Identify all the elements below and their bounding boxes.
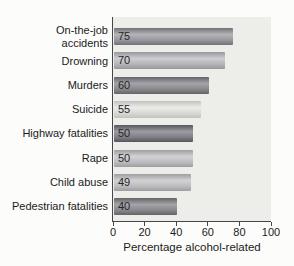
bar-row: Child abuse49 xyxy=(0,174,294,191)
x-tick-label: 100 xyxy=(256,226,286,238)
category-label: Suicide xyxy=(0,101,108,118)
x-tick-label: 0 xyxy=(98,226,128,238)
x-tick-label: 20 xyxy=(130,226,160,238)
bar: 50 xyxy=(114,125,193,142)
bar: 75 xyxy=(114,28,233,45)
category-label: Drowning xyxy=(0,52,108,69)
category-label: Murders xyxy=(0,77,108,94)
bar: 40 xyxy=(114,198,177,215)
value-label: 50 xyxy=(118,150,130,167)
bar: 60 xyxy=(114,77,209,94)
bar: 49 xyxy=(114,174,191,191)
bar-row: On-the-job accidents75 xyxy=(0,28,294,45)
value-label: 70 xyxy=(118,52,130,69)
bar: 70 xyxy=(114,52,225,69)
bar: 55 xyxy=(114,101,201,118)
bar: 50 xyxy=(114,150,193,167)
bar-row: Drowning70 xyxy=(0,52,294,69)
category-label: Highway fatalities xyxy=(0,125,108,142)
category-label: On-the-job accidents xyxy=(0,28,108,45)
value-label: 40 xyxy=(118,198,130,215)
bar-row: Suicide55 xyxy=(0,101,294,118)
category-label: Rape xyxy=(0,150,108,167)
value-label: 50 xyxy=(118,125,130,142)
value-label: 75 xyxy=(118,28,130,45)
x-tick-label: 40 xyxy=(161,226,191,238)
x-tick-label: 80 xyxy=(224,226,254,238)
x-tick-label: 60 xyxy=(193,226,223,238)
alcohol-bar-chart: On-the-job accidents75Drowning70Murders6… xyxy=(0,0,294,266)
value-label: 49 xyxy=(118,174,130,191)
category-label: Pedestrian fatalities xyxy=(0,198,108,215)
bar-row: Pedestrian fatalities40 xyxy=(0,198,294,215)
value-label: 55 xyxy=(118,101,130,118)
bar-row: Highway fatalities50 xyxy=(0,125,294,142)
bar-row: Rape50 xyxy=(0,150,294,167)
x-axis-label: Percentage alcohol-related xyxy=(100,241,284,253)
category-label: Child abuse xyxy=(0,174,108,191)
bar-row: Murders60 xyxy=(0,77,294,94)
value-label: 60 xyxy=(118,77,130,94)
plot-area xyxy=(112,17,271,222)
